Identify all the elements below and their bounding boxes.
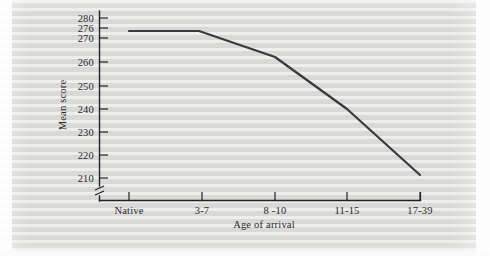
x-axis: Native 3-7 8 -10 11-15 17-39 Age of arri… bbox=[100, 192, 433, 230]
x-axis-ticks bbox=[129, 192, 420, 201]
chart-plot-area: 280 276 270 260 250 240 230 220 210 Mean… bbox=[0, 0, 490, 256]
y-tick-label-6: 230 bbox=[78, 127, 94, 138]
x-axis-title: Age of arrival bbox=[233, 219, 295, 230]
line-chart-figure: 280 276 270 260 250 240 230 220 210 Mean… bbox=[0, 0, 490, 256]
y-tick-label-3: 260 bbox=[78, 57, 94, 68]
x-tick-label-1: 3-7 bbox=[195, 205, 210, 216]
x-axis-tick-labels: Native 3-7 8 -10 11-15 17-39 bbox=[114, 205, 432, 216]
x-tick-label-2: 8 -10 bbox=[264, 205, 287, 216]
y-axis-ticks bbox=[100, 18, 109, 178]
x-tick-label-0: Native bbox=[114, 205, 143, 216]
y-tick-label-5: 240 bbox=[78, 104, 94, 115]
y-axis-title: Mean score bbox=[57, 80, 68, 131]
mean-score-line bbox=[129, 31, 420, 175]
data-series-mean-score bbox=[129, 31, 420, 175]
y-axis-break-icon bbox=[95, 186, 104, 195]
x-tick-label-4: 17-39 bbox=[407, 205, 433, 216]
x-tick-label-3: 11-15 bbox=[334, 205, 359, 216]
y-tick-label-7: 220 bbox=[78, 150, 94, 161]
y-axis: 280 276 270 260 250 240 230 220 210 Mean… bbox=[57, 11, 108, 201]
y-tick-label-8: 210 bbox=[78, 173, 94, 184]
y-tick-label-2: 270 bbox=[78, 33, 94, 44]
y-axis-tick-labels: 280 276 270 260 250 240 230 220 210 bbox=[78, 13, 94, 184]
y-tick-label-4: 250 bbox=[78, 81, 94, 92]
